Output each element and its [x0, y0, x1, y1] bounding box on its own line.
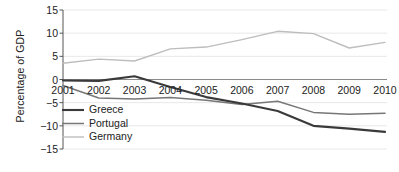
x-axis-tick-label: 2006	[225, 85, 259, 95]
y-axis-label-container: Percentage of GDP	[0, 0, 30, 172]
y-axis-tick-label: 5	[30, 51, 58, 61]
x-axis-tick-label: 2003	[118, 85, 152, 95]
y-axis-tick-label: −15	[30, 144, 58, 154]
y-axis-tick-label: 0	[30, 75, 58, 85]
chart-figure: Percentage of GDP 151050−5−10−15 2001200…	[0, 0, 399, 172]
y-axis-tick-label: −10	[30, 121, 58, 131]
x-axis-tick-label: 2005	[189, 85, 223, 95]
legend-label-greece: Greece	[89, 104, 123, 115]
y-axis-label: Percentage of GDP	[14, 11, 26, 141]
x-axis-tick-label: 2010	[368, 85, 399, 95]
x-axis-tick-label: 2008	[296, 85, 330, 95]
legend-label-portugal: Portugal	[89, 118, 128, 129]
x-axis-tick-label: 2004	[153, 85, 187, 95]
x-axis-tick-label: 2001	[46, 85, 80, 95]
x-axis-tick-label: 2009	[332, 85, 366, 95]
y-axis-tick-label: −5	[30, 98, 58, 108]
x-axis-tick-label: 2007	[261, 85, 295, 95]
y-axis-tick-label: 10	[30, 28, 58, 38]
legend-label-germany: Germany	[89, 131, 132, 142]
x-axis-tick-label: 2002	[82, 85, 116, 95]
series-line-germany	[63, 31, 385, 63]
y-axis-tick-label: 15	[30, 5, 58, 15]
